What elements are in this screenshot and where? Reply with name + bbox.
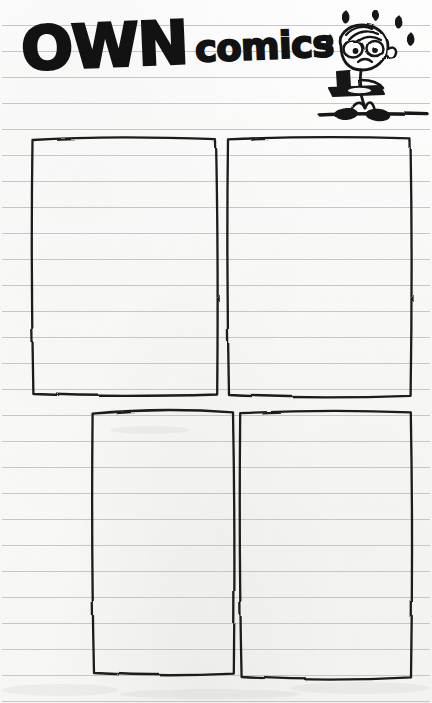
comic-panel-grid [0,0,432,703]
comic-panel-3[interactable] [88,405,240,683]
comic-panel-4[interactable] [234,405,418,687]
comic-panel-2[interactable] [222,132,418,402]
comics-worksheet-page: OWN comics [0,0,432,703]
comic-panel-1[interactable] [28,132,224,402]
